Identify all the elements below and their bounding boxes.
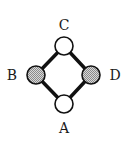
node-c	[55, 37, 73, 55]
node-b	[27, 66, 45, 84]
node-label-c: C	[59, 17, 70, 33]
nodes-group	[27, 37, 100, 113]
node-label-d: D	[109, 67, 120, 83]
node-label-a: A	[58, 120, 70, 136]
node-a	[55, 95, 73, 113]
graph-diagram: ABCD	[0, 0, 127, 151]
node-d	[82, 66, 100, 84]
node-label-b: B	[7, 67, 17, 83]
labels-group: ABCD	[7, 17, 121, 136]
